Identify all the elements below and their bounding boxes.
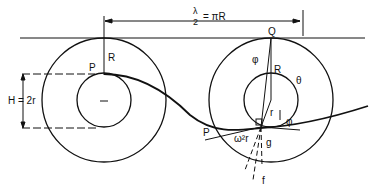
lambda-denominator: 2 bbox=[193, 18, 198, 27]
lambda-numerator: λ bbox=[193, 7, 198, 16]
label-theta: θ bbox=[296, 76, 302, 86]
left-inner-circle bbox=[77, 73, 131, 127]
label-g: g bbox=[266, 138, 272, 148]
label-R-left: R bbox=[108, 53, 115, 63]
lambda-rhs: = πR bbox=[203, 12, 226, 22]
label-H: H = 2r bbox=[8, 96, 36, 106]
label-R-right: R bbox=[274, 65, 281, 75]
label-r: r bbox=[270, 108, 273, 118]
label-phi-top: φ bbox=[252, 55, 258, 65]
cycloid-diagram: λ 2 = πR R P H = 2r Q φ R θ r φ P ω²r g … bbox=[0, 0, 377, 193]
label-f: f bbox=[262, 176, 265, 186]
label-P-left: P bbox=[89, 63, 96, 73]
diagram-graphics bbox=[0, 0, 377, 193]
label-Q: Q bbox=[268, 27, 276, 37]
cycloid-curve bbox=[104, 74, 368, 130]
label-omega: ω²r bbox=[234, 134, 248, 144]
label-P-right: P bbox=[203, 128, 210, 138]
label-phi-right: φ bbox=[286, 117, 292, 127]
